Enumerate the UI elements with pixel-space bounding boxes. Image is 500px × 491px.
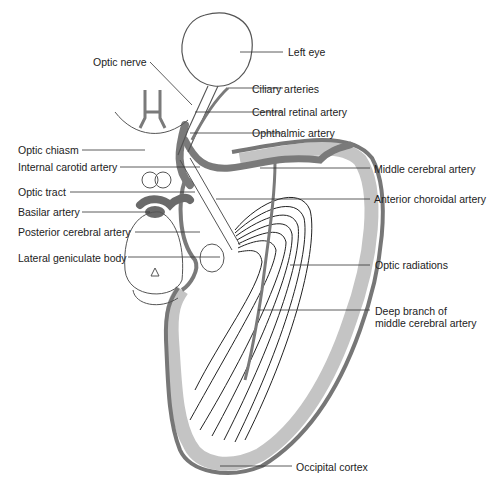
label-deep-branch-line2: middle cerebral artery <box>375 317 477 329</box>
label-lateral-geniculate-body: Lateral geniculate body <box>18 252 127 264</box>
left-eye <box>182 13 252 86</box>
label-deep-branch-line1: Deep branch of <box>375 305 447 317</box>
occipital-cortex-band <box>172 148 372 463</box>
internal-carotid-artery <box>180 125 190 185</box>
label-anterior-choroidal-artery: Anterior choroidal artery <box>374 193 486 205</box>
optic-tract <box>180 158 240 250</box>
label-optic-radiations: Optic radiations <box>375 259 448 271</box>
mammillary-body-left <box>142 172 158 188</box>
label-optic-chiasm: Optic chiasm <box>18 144 79 156</box>
label-central-retinal-artery: Central retinal artery <box>252 106 347 118</box>
anatomy-diagram <box>0 0 500 491</box>
ophthalmic-artery <box>192 88 228 140</box>
label-optic-nerve: Optic nerve <box>93 56 147 68</box>
chiasm-vessels <box>140 90 165 128</box>
label-basilar-artery: Basilar artery <box>18 206 80 218</box>
label-left-eye: Left eye <box>288 46 325 58</box>
label-optic-tract: Optic tract <box>18 186 66 198</box>
label-posterior-cerebral-artery: Posterior cerebral artery <box>18 226 131 238</box>
mammillary-body-right <box>155 172 171 188</box>
label-ciliary-arteries: Ciliary arteries <box>252 83 319 95</box>
label-occipital-cortex: Occipital cortex <box>296 461 368 473</box>
label-ophthalmic-artery: Ophthalmic artery <box>252 127 335 139</box>
label-internal-carotid-artery: Internal carotid artery <box>18 161 117 173</box>
label-middle-cerebral-artery: Middle cerebral artery <box>374 163 476 175</box>
midbrain-outline <box>125 212 183 294</box>
chiasm-outline <box>115 112 188 133</box>
aqueduct <box>151 268 159 276</box>
lateral-geniculate-body-shape <box>200 244 224 272</box>
optic-radiations <box>190 197 312 442</box>
